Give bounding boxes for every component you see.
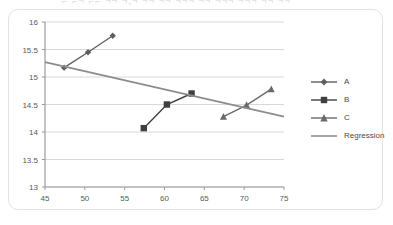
cropped-caption-strip: ⌐ ⌐¬ ⌐⌐ ¬¬ ¬,¬ ¬¬ ¬¬ ¬¬¬ ¬¬ ¬¬¬ ¬¬¬ ¬¬ ¬…: [0, 0, 393, 9]
y-tick-label: 15: [29, 73, 38, 82]
y-tick-label: 14: [29, 128, 38, 137]
legend-item-c[interactable]: C: [309, 109, 389, 127]
chart-screenshot: ⌐ ⌐¬ ⌐⌐ ¬¬ ¬,¬ ¬¬ ¬¬ ¬¬¬ ¬¬ ¬¬¬ ¬¬¬ ¬¬ ¬…: [0, 0, 393, 225]
triangle-marker: [309, 112, 339, 124]
y-tick-label: 16: [29, 18, 38, 27]
series-line-B: [144, 94, 192, 129]
legend-label: B: [344, 96, 349, 104]
x-axis-tick-labels: 45505560657075: [41, 194, 289, 203]
x-tick-label: 55: [120, 194, 129, 203]
x-tick-label: 65: [200, 194, 209, 203]
chart-legend: ABCRegression: [309, 73, 389, 145]
triangle-marker: [268, 85, 275, 92]
line-marker: [309, 130, 339, 142]
series-line-Regression: [45, 62, 284, 116]
square-marker: [309, 94, 339, 106]
y-tick-label: 14.5: [22, 101, 38, 110]
diamond-marker: [309, 76, 339, 88]
x-tick-label: 45: [41, 194, 50, 203]
legend-item-regression[interactable]: Regression: [309, 127, 389, 145]
x-tick-label: 60: [160, 194, 169, 203]
y-tick-label: 15.5: [22, 46, 38, 55]
legend-item-a[interactable]: A: [309, 73, 389, 91]
x-tick-label: 50: [80, 194, 89, 203]
x-tick-label: 75: [280, 194, 289, 203]
y-axis-tick-labels: 1313.51414.51515.516: [22, 18, 38, 192]
chart-card: 1313.51414.51515.516 45505560657075 ABCR…: [8, 9, 383, 210]
legend-label: C: [344, 114, 350, 122]
cropped-caption-text: ⌐ ⌐¬ ⌐⌐ ¬¬ ¬,¬ ¬¬ ¬¬ ¬¬¬ ¬¬ ¬¬¬ ¬¬¬ ¬¬ ¬…: [62, 0, 393, 6]
legend-item-b[interactable]: B: [309, 91, 389, 109]
square-marker: [321, 97, 327, 103]
triangle-marker: [220, 113, 227, 120]
square-marker: [164, 101, 170, 107]
diamond-marker: [321, 79, 328, 86]
data-series-group: [45, 33, 284, 132]
square-marker: [141, 125, 147, 131]
x-tick-label: 70: [240, 194, 249, 203]
legend-label: Regression: [344, 132, 384, 140]
legend-label: A: [344, 78, 349, 86]
y-tick-label: 13.5: [22, 156, 38, 165]
y-tick-label: 13: [29, 183, 38, 192]
